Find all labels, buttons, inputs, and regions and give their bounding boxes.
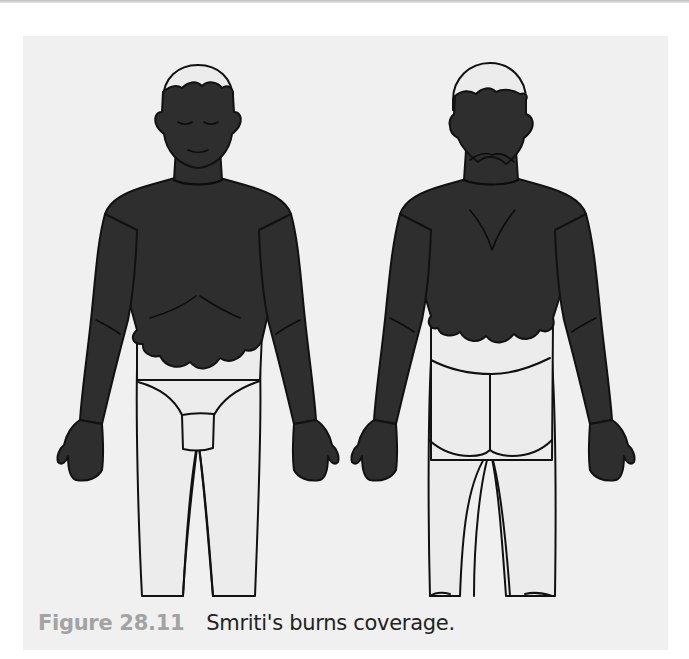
back-lower-back bbox=[431, 322, 553, 460]
back-right-hand bbox=[589, 420, 635, 481]
front-groin-patch bbox=[182, 413, 214, 450]
front-view bbox=[57, 65, 338, 596]
figure-number: Figure 28.11 bbox=[38, 611, 184, 635]
front-right-arm bbox=[259, 214, 316, 424]
body-diagram: .burn { fill: #2e2e2e; stroke: #111; str… bbox=[0, 0, 689, 659]
figure-caption-text: Smriti's burns coverage. bbox=[206, 611, 455, 635]
back-left-hand bbox=[351, 420, 397, 481]
back-head-burn bbox=[449, 88, 532, 164]
front-face-burn bbox=[155, 82, 241, 168]
front-right-hand bbox=[293, 420, 339, 481]
back-view bbox=[351, 63, 634, 596]
back-left-arm bbox=[374, 214, 431, 424]
front-left-arm bbox=[80, 214, 137, 424]
figure-caption: Figure 28.11 Smriti's burns coverage. bbox=[38, 611, 455, 641]
front-legs bbox=[137, 368, 261, 596]
back-right-arm bbox=[555, 214, 612, 424]
front-left-hand bbox=[57, 420, 103, 481]
